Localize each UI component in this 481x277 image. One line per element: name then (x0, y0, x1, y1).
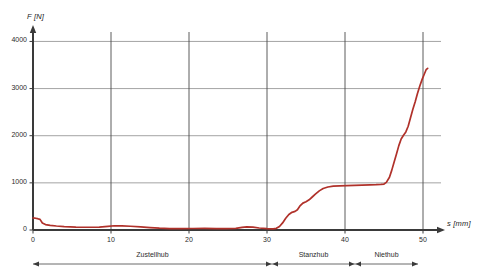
phase-bar-end-arrow (412, 262, 418, 267)
y-axis (30, 25, 36, 230)
phase-divider-arrow-right-0 (273, 262, 278, 267)
y-tick-label: 2000 (0, 131, 27, 138)
y-axis-arrow (30, 25, 36, 33)
x-axis-arrow (437, 227, 445, 233)
phase-label-niethub: Niethub (347, 251, 427, 258)
horizontal-gridlines (33, 41, 441, 182)
force-curve (33, 68, 428, 229)
y-tick-label: 3000 (0, 84, 27, 91)
x-tick-label: 50 (408, 236, 438, 243)
y-axis-label: F [N] (27, 12, 44, 21)
phase-annotation-bar (33, 262, 418, 267)
x-tick-label: 30 (252, 236, 282, 243)
phase-divider-arrow-right-1 (356, 262, 361, 267)
vertical-gridlines (111, 32, 423, 230)
phase-divider-arrow-left-1 (349, 262, 354, 267)
phase-bar-start-arrow (33, 262, 39, 267)
force-displacement-chart: F [N] s [mm] 01000200030004000 010203040… (0, 0, 481, 277)
x-tick-label: 20 (174, 236, 204, 243)
y-tick-label: 1000 (0, 178, 27, 185)
x-axis-label: s [mm] (447, 219, 471, 228)
phase-divider-arrow-left-0 (266, 262, 271, 267)
x-tick-label: 10 (96, 236, 126, 243)
phase-label-zustellhub: Zustellhub (113, 251, 193, 258)
x-tick-label: 40 (330, 236, 360, 243)
phase-label-stanzhub: Stanzhub (274, 251, 354, 258)
x-tick-label: 0 (18, 236, 48, 243)
y-tick-label: 0 (0, 225, 27, 232)
y-tick-label: 4000 (0, 36, 27, 43)
